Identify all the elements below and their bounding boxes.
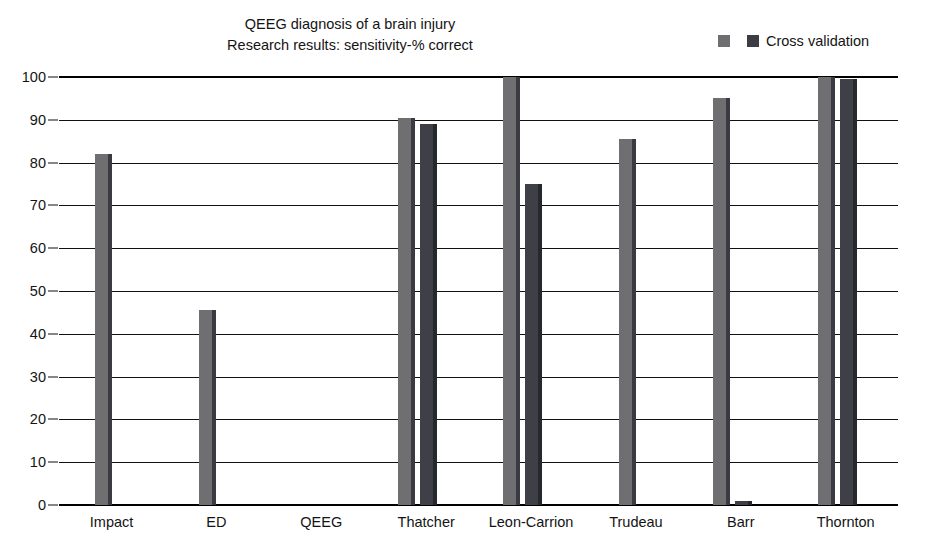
chart-legend: Cross validation [718, 32, 879, 50]
bar-thornton-series2 [840, 79, 857, 505]
bar-shadow-edge [212, 310, 216, 505]
y-axis-tick-label: 70 [30, 197, 46, 213]
gridline [59, 419, 898, 420]
bar-shadow-edge [538, 184, 542, 505]
legend-swatch-icon-series1 [718, 35, 730, 47]
bar-shadow-edge [433, 124, 437, 505]
bar-body [619, 139, 632, 505]
gridline [59, 120, 898, 121]
x-axis-label-trudeau: Trudeau [609, 514, 662, 530]
x-axis-label-qeeg: QEEG [300, 514, 342, 530]
y-axis-tick-mark [48, 419, 58, 420]
bar-body [840, 79, 853, 505]
legend-item-series1 [718, 35, 737, 47]
plot-frame-top [59, 76, 898, 78]
bar-thornton-series1 [818, 77, 835, 505]
gridline [59, 334, 898, 335]
bar-shadow-edge [411, 118, 415, 505]
y-axis-tick-mark [48, 333, 58, 334]
y-axis-tick-mark [48, 162, 58, 163]
bar-leon-carrion-series1 [503, 77, 520, 505]
gridline [59, 205, 898, 206]
chart-subtitle: Research results: sensitivity-% correct [0, 35, 700, 56]
y-axis-tick-label: 30 [30, 369, 46, 385]
bar-shadow-edge [748, 501, 752, 505]
y-axis-tick-mark [48, 462, 58, 463]
x-axis-label-barr: Barr [727, 514, 754, 530]
y-axis-tick-mark [48, 205, 58, 206]
gridline [59, 248, 898, 249]
y-axis-tick-label: 40 [30, 326, 46, 342]
bar-thatcher-series1 [398, 118, 415, 505]
bar-body [398, 118, 411, 505]
plot-frame-bottom [59, 504, 898, 506]
bar-shadow-edge [726, 98, 730, 505]
bar-body [420, 124, 433, 505]
legend-label-series2: Cross validation [766, 33, 869, 49]
gridline [59, 462, 898, 463]
legend-swatch-icon-series2 [747, 35, 759, 47]
bar-impact-series1 [95, 154, 112, 505]
chart-title: QEEG diagnosis of a brain injury [0, 14, 700, 35]
bar-shadow-edge [632, 139, 636, 505]
bar-barr-series1 [713, 98, 730, 505]
gridline [59, 377, 898, 378]
bar-trudeau-series1 [619, 139, 636, 505]
chart-title-block: QEEG diagnosis of a brain injury Researc… [0, 14, 700, 55]
plot-area: 1009080706050403020100 [59, 77, 898, 505]
gridline [59, 163, 898, 164]
bar-body [735, 501, 748, 505]
bar-body [95, 154, 108, 505]
bar-shadow-edge [853, 79, 857, 505]
bar-thatcher-series2 [420, 124, 437, 505]
y-axis-tick-mark [48, 291, 58, 292]
y-axis-tick-label: 50 [30, 283, 46, 299]
y-axis-tick-mark [48, 505, 58, 506]
y-axis-tick-label: 100 [22, 69, 46, 85]
y-axis-tick-mark [48, 376, 58, 377]
y-axis-tick-label: 10 [30, 454, 46, 470]
x-axis-label-ed: ED [206, 514, 226, 530]
y-axis-tick-label: 20 [30, 411, 46, 427]
x-axis-label-leon-carrion: Leon-Carrion [489, 514, 574, 530]
legend-item-series2: Cross validation [747, 33, 869, 49]
y-axis-tick-mark [48, 77, 58, 78]
y-axis-tick-label: 60 [30, 240, 46, 256]
y-axis-tick-label: 90 [30, 112, 46, 128]
y-axis-tick-mark [48, 248, 58, 249]
bar-leon-carrion-series2 [525, 184, 542, 505]
chart-page: QEEG diagnosis of a brain injury Researc… [0, 0, 935, 546]
bar-shadow-edge [831, 77, 835, 505]
bar-body [525, 184, 538, 505]
x-axis-label-thatcher: Thatcher [398, 514, 455, 530]
y-axis-tick-mark [48, 119, 58, 120]
bar-body [713, 98, 726, 505]
gridline [59, 291, 898, 292]
bar-body [818, 77, 831, 505]
bar-barr-series2 [735, 501, 752, 505]
bar-shadow-edge [108, 154, 112, 505]
bar-body [503, 77, 516, 505]
bar-shadow-edge [516, 77, 520, 505]
x-axis-label-impact: Impact [90, 514, 134, 530]
bar-body [199, 310, 212, 505]
x-axis-label-thornton: Thornton [817, 514, 875, 530]
y-axis-tick-label: 0 [38, 497, 46, 513]
bar-ed-series1 [199, 310, 216, 505]
y-axis-tick-label: 80 [30, 155, 46, 171]
